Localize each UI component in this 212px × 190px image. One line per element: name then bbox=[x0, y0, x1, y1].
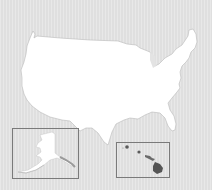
kauai-icon bbox=[125, 145, 129, 149]
maui-molokai-icon bbox=[145, 155, 155, 161]
hawaii-inset[interactable] bbox=[117, 143, 170, 178]
alaska-inset[interactable] bbox=[13, 129, 79, 179]
contiguous-us-shape[interactable] bbox=[21, 29, 197, 145]
map-canvas bbox=[0, 0, 212, 190]
niihau-icon bbox=[122, 147, 123, 148]
alaska-panhandle-icon bbox=[60, 157, 75, 167]
us-map bbox=[0, 0, 212, 190]
hawaii-inset-border bbox=[117, 143, 170, 178]
oahu-icon bbox=[137, 150, 140, 153]
big-island-icon bbox=[153, 162, 163, 174]
alaska-shape bbox=[18, 132, 74, 173]
